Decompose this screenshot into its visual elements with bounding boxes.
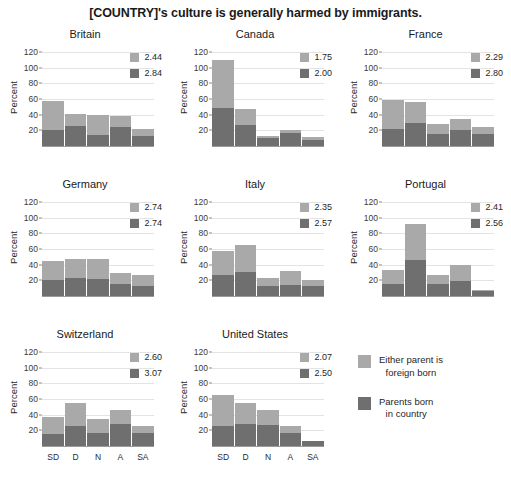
y-axis-label: Percent	[346, 198, 360, 296]
bar-stack	[427, 48, 449, 146]
y-axis-label: Percent	[346, 48, 360, 146]
y-tick-label: 100	[364, 63, 378, 73]
legend-swatch-light	[300, 53, 309, 62]
panel-title: Canada	[170, 28, 340, 40]
legend-swatch-light	[471, 53, 480, 62]
bar-segment-native-born	[110, 424, 132, 446]
bar-segment-native-born	[280, 285, 302, 296]
y-tick-label: 60	[199, 94, 208, 104]
x-tick-label: D	[234, 452, 256, 462]
bar-segment-foreign-born	[427, 124, 449, 134]
y-tick-label: 60	[369, 94, 378, 104]
legend-swatch-light	[300, 203, 309, 212]
y-tick-label: 80	[29, 228, 38, 238]
mean-value-row: 2.29	[471, 52, 503, 62]
bar-segment-foreign-born	[450, 265, 472, 281]
panel-united-states: United StatesPercent204060801001202.072.…	[170, 326, 340, 492]
x-tick-label: N	[87, 452, 109, 462]
y-tick-label: 60	[369, 244, 378, 254]
y-axis-label-text: Percent	[178, 81, 189, 114]
bar-stack	[382, 198, 404, 296]
bar-stack	[280, 198, 302, 296]
bar-segment-native-born	[212, 108, 234, 146]
bar-segment-foreign-born	[87, 419, 109, 433]
y-axis-label-text: Percent	[178, 381, 189, 414]
bar-segment-native-born	[405, 260, 427, 296]
bar-stack	[42, 198, 64, 296]
bar-stack	[257, 198, 279, 296]
bar-segment-native-born	[382, 284, 404, 296]
bar-segment-foreign-born	[87, 115, 109, 135]
mean-value-row: 2.60	[130, 352, 162, 362]
bar-segment-native-born	[472, 134, 494, 146]
bar-stack	[450, 198, 472, 296]
mean-values-legend: 2.742.74	[130, 202, 162, 228]
bar-segment-foreign-born	[110, 116, 132, 127]
legend-swatch-light	[130, 53, 139, 62]
bar-stack	[87, 198, 109, 296]
y-tick-label: 100	[194, 363, 208, 373]
x-axis-line	[42, 146, 154, 147]
bar-segment-native-born	[65, 126, 87, 146]
bar-segment-native-born	[42, 434, 64, 446]
legend-swatch-dark	[300, 69, 309, 78]
bar-segment-foreign-born	[110, 273, 132, 285]
y-tick-label: 80	[29, 78, 38, 88]
y-tick-label: 40	[29, 410, 38, 420]
mean-value: 2.56	[485, 218, 503, 228]
y-tick-label: 120	[364, 47, 378, 57]
y-tick-label: 20	[29, 275, 38, 285]
legend-label-line2: foreign born	[379, 367, 443, 380]
y-tick-label: 120	[24, 347, 38, 357]
legend-panel: Either parent isforeign bornParents born…	[340, 326, 511, 492]
bar-segment-native-born	[382, 129, 404, 146]
bar-segment-foreign-born	[42, 417, 64, 434]
bar-segment-foreign-born	[42, 101, 64, 130]
mean-value-row: 2.80	[471, 68, 503, 78]
bar-segment-native-born	[405, 123, 427, 146]
y-tick-label: 20	[199, 275, 208, 285]
chart-title: [COUNTRY]'s culture is generally harmed …	[0, 6, 511, 20]
mean-value: 2.29	[485, 52, 503, 62]
bar-segment-foreign-born	[132, 129, 154, 136]
y-tick-label: 40	[29, 110, 38, 120]
legend-swatch-dark	[358, 397, 371, 410]
y-axis-label-text: Percent	[348, 231, 359, 264]
bar-stack	[212, 198, 234, 296]
legend-label-line2: in country	[379, 408, 433, 421]
mean-value-row: 2.35	[300, 202, 332, 212]
panel-title: Britain	[0, 28, 170, 40]
y-axis-label-text: Percent	[8, 231, 19, 264]
bar-stack	[87, 348, 109, 446]
y-axis-label: Percent	[6, 198, 20, 296]
bar-segment-native-born	[235, 424, 257, 446]
y-tick-label: 60	[29, 94, 38, 104]
bar-segment-foreign-born	[235, 109, 257, 125]
panel-grid: BritainPercent204060801001202.442.84Cana…	[0, 26, 511, 496]
panel-title: United States	[170, 328, 340, 340]
bar-segment-foreign-born	[212, 395, 234, 426]
bar-segment-foreign-born	[65, 114, 87, 126]
bar-stack	[235, 348, 257, 446]
legend-item: Either parent isforeign born	[358, 354, 443, 380]
bar-segment-foreign-born	[132, 275, 154, 286]
y-tick-label: 100	[364, 213, 378, 223]
panel-italy: ItalyPercent204060801001202.352.57	[170, 176, 340, 326]
x-tick-label: SA	[302, 452, 324, 462]
mean-value-row: 2.00	[300, 68, 332, 78]
bar-segment-foreign-born	[235, 403, 257, 424]
x-tick-labels: SDDNASA	[212, 452, 324, 462]
bar-segment-native-born	[302, 286, 324, 296]
x-axis-line	[42, 446, 154, 447]
mean-value: 2.50	[314, 368, 332, 378]
bar-segment-foreign-born	[280, 271, 302, 285]
y-axis-label-text: Percent	[8, 81, 19, 114]
y-tick-label: 20	[199, 125, 208, 135]
y-tick-label: 100	[194, 213, 208, 223]
x-tick-label: A	[279, 452, 301, 462]
bar-stack	[65, 198, 87, 296]
y-tick-label: 40	[369, 260, 378, 270]
mean-value: 2.60	[144, 352, 162, 362]
panel-germany: GermanyPercent204060801001202.742.74	[0, 176, 170, 326]
bar-stack	[110, 198, 132, 296]
